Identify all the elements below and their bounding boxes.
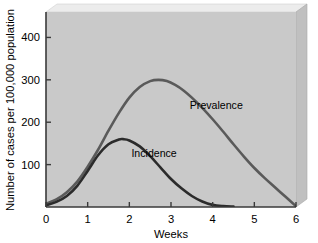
y-tick-label: 300 (21, 74, 40, 86)
series-annotation-prevalence: Prevalence (190, 99, 243, 111)
x-tick-label: 1 (85, 213, 91, 225)
x-tick-label: 6 (293, 213, 299, 225)
x-axis-label: Weeks (154, 228, 188, 240)
plot-3d-right-face (296, 4, 307, 207)
x-tick-label: 2 (126, 213, 132, 225)
x-tick-label: 0 (43, 213, 49, 225)
y-tick-label: 200 (21, 116, 40, 128)
series-annotation-incidence: Incidence (131, 147, 176, 159)
chart-svg: 100200300400 0123456 Number of cases per… (0, 0, 318, 243)
plot-3d-top-face (46, 4, 307, 12)
x-tick-label: 3 (168, 213, 174, 225)
x-tick-label: 5 (251, 213, 257, 225)
y-tick-label: 100 (21, 159, 40, 171)
x-tick-label: 4 (210, 213, 216, 225)
chart-figure: 100200300400 0123456 Number of cases per… (0, 0, 318, 243)
y-axis-label: Number of cases per 100,000 population (4, 9, 16, 211)
y-tick-label: 400 (21, 31, 40, 43)
